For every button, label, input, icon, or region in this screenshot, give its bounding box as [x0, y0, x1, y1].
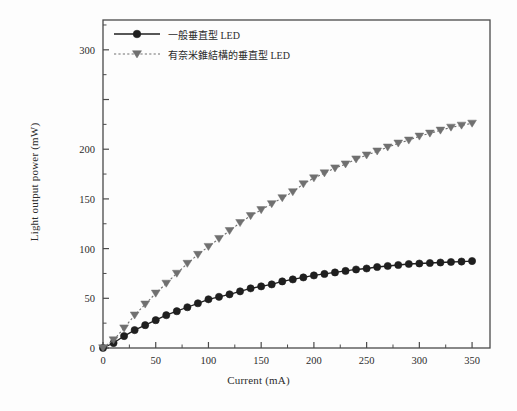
- data-point-triangle: [331, 165, 340, 172]
- data-point-circle: [342, 267, 349, 274]
- data-point-circle: [321, 270, 328, 277]
- data-point-triangle: [404, 137, 413, 144]
- legend-label-2: 有奈米錐結構的垂直型 LED: [168, 47, 290, 62]
- data-point-circle: [300, 274, 307, 281]
- data-point-triangle: [383, 144, 392, 151]
- data-point-triangle: [120, 325, 129, 332]
- data-point-circle: [215, 293, 222, 300]
- data-point-triangle: [288, 189, 297, 196]
- data-point-triangle: [426, 130, 435, 137]
- series-1: [99, 257, 475, 351]
- data-point-circle: [468, 257, 475, 264]
- x-tick-label: 300: [411, 355, 427, 366]
- series-line: [103, 261, 472, 348]
- data-point-circle: [142, 322, 149, 329]
- data-point-triangle: [373, 148, 382, 155]
- y-tick-label: 50: [57, 293, 95, 304]
- y-tick-label: 200: [57, 144, 95, 155]
- data-point-circle: [426, 259, 433, 266]
- data-point-circle: [152, 317, 159, 324]
- data-point-triangle: [394, 140, 403, 147]
- data-point-circle: [236, 288, 243, 295]
- x-tick-label: 200: [306, 355, 322, 366]
- data-point-triangle: [141, 301, 150, 308]
- data-point-circle: [384, 262, 391, 269]
- y-tick-label: 150: [57, 193, 95, 204]
- data-point-circle: [163, 312, 170, 319]
- data-point-triangle: [310, 175, 319, 182]
- data-point-circle: [131, 327, 138, 334]
- data-point-triangle: [320, 170, 329, 177]
- data-point-triangle: [362, 152, 371, 159]
- data-point-circle: [194, 300, 201, 307]
- data-point-triangle: [246, 213, 255, 220]
- data-point-triangle: [130, 312, 139, 319]
- data-point-circle: [310, 272, 317, 279]
- data-point-triangle: [447, 124, 456, 131]
- data-point-circle: [395, 261, 402, 268]
- data-point-triangle: [278, 195, 287, 202]
- x-tick-label: 50: [150, 355, 161, 366]
- data-point-circle: [352, 266, 359, 273]
- axis-ticks: [103, 25, 472, 348]
- y-tick-label: 300: [57, 44, 95, 55]
- chart-figure: Current (mA) Light output power (mW) 050…: [0, 0, 517, 411]
- data-series-layer: [99, 120, 477, 352]
- data-point-circle: [289, 276, 296, 283]
- data-point-circle: [374, 263, 381, 270]
- data-point-circle: [120, 332, 127, 339]
- legend-label-1: 一般垂直型 LED: [168, 27, 240, 42]
- data-point-circle: [405, 260, 412, 267]
- data-point-triangle: [267, 201, 276, 208]
- y-tick-label: 0: [57, 343, 95, 354]
- data-point-circle: [247, 285, 254, 292]
- data-point-triangle: [341, 161, 350, 168]
- data-point-triangle: [172, 270, 181, 277]
- data-point-circle: [226, 291, 233, 298]
- data-point-circle: [268, 281, 275, 288]
- legend-marker-1: [133, 30, 141, 38]
- legend-marker-2: [133, 51, 142, 58]
- x-tick-label: 0: [100, 355, 105, 366]
- x-tick-label: 250: [359, 355, 375, 366]
- data-point-circle: [173, 308, 180, 315]
- data-point-circle: [416, 260, 423, 267]
- legend-glyphs: [114, 30, 160, 58]
- data-point-triangle: [415, 133, 424, 140]
- data-point-circle: [437, 259, 444, 266]
- data-point-circle: [363, 265, 370, 272]
- x-axis-title: Current (mA): [0, 374, 517, 386]
- y-axis-title: Light output power (mW): [28, 82, 40, 282]
- series-line: [103, 123, 472, 348]
- plot-border: [103, 20, 490, 348]
- data-point-triangle: [257, 207, 266, 214]
- data-point-circle: [447, 258, 454, 265]
- data-point-circle: [331, 269, 338, 276]
- x-tick-label: 100: [201, 355, 217, 366]
- y-tick-label: 100: [57, 243, 95, 254]
- data-point-triangle: [162, 280, 171, 287]
- data-point-circle: [205, 296, 212, 303]
- data-point-circle: [458, 258, 465, 265]
- data-point-circle: [184, 304, 191, 311]
- data-point-circle: [258, 283, 265, 290]
- data-point-circle: [279, 278, 286, 285]
- x-tick-label: 150: [253, 355, 269, 366]
- x-tick-label: 350: [464, 355, 480, 366]
- plot-frame: [103, 20, 490, 348]
- data-point-triangle: [352, 156, 361, 163]
